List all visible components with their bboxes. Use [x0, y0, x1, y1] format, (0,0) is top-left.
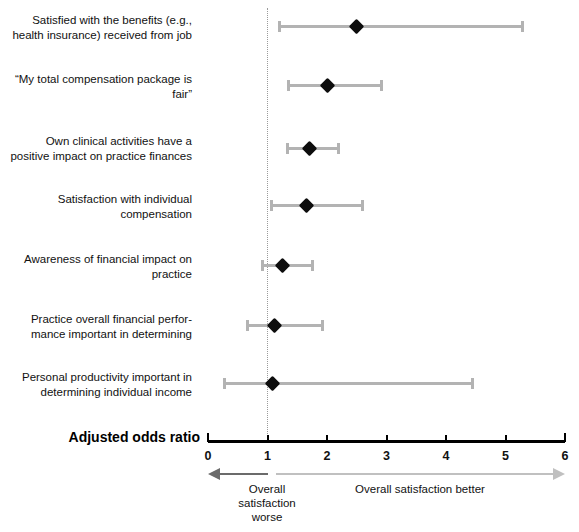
ci-cap-upper	[337, 143, 340, 154]
x-axis-tick	[267, 435, 269, 441]
x-axis-tick	[445, 435, 447, 441]
arrow-shaft	[276, 473, 556, 475]
reference-line-at-1	[267, 8, 268, 440]
odds-ratio-point	[267, 317, 283, 333]
ci-cap-upper	[471, 378, 474, 389]
odds-ratio-point	[275, 257, 291, 273]
confidence-interval-line	[247, 324, 323, 327]
x-axis-tick-label: 4	[431, 449, 461, 463]
x-axis-tick	[326, 435, 328, 441]
odds-ratio-point	[319, 77, 335, 93]
better-direction-arrow	[276, 467, 566, 481]
ci-cap-upper	[311, 260, 314, 271]
arrow-shaft	[218, 473, 268, 475]
odds-ratio-point	[299, 197, 315, 213]
ci-cap-upper	[521, 21, 524, 32]
arrow-head	[208, 468, 220, 480]
x-axis-tick-label: 2	[312, 449, 342, 463]
ci-cap-lower	[246, 320, 249, 331]
confidence-interval-line	[280, 25, 522, 28]
ci-cap-upper	[380, 80, 383, 91]
ci-cap-upper	[361, 200, 364, 211]
confidence-interval-line	[271, 204, 362, 207]
x-axis-tick-label: 1	[253, 449, 283, 463]
ci-cap-lower	[261, 260, 264, 271]
x-axis-tick	[505, 435, 507, 441]
odds-ratio-point	[349, 18, 365, 34]
x-axis-tick-label: 0	[193, 449, 223, 463]
confidence-interval-line	[289, 84, 382, 87]
ci-cap-lower	[287, 80, 290, 91]
x-axis-tick-label: 3	[372, 449, 402, 463]
forest-plot-figure: Satisfied with the benefits (e.g., healt…	[0, 0, 579, 532]
ci-cap-lower	[270, 200, 273, 211]
x-axis-tick	[564, 433, 567, 442]
x-axis-tick-label: 6	[550, 449, 579, 463]
x-axis-tick	[207, 433, 210, 442]
odds-ratio-point	[302, 140, 318, 156]
arrow-head	[553, 468, 565, 480]
x-axis-title: Adjusted odds ratio	[0, 429, 200, 445]
ci-cap-upper	[321, 320, 324, 331]
ci-cap-lower	[286, 143, 289, 154]
better-direction-caption: Overall satisfaction better	[275, 482, 565, 496]
x-axis-tick-label: 5	[491, 449, 521, 463]
confidence-interval-line	[224, 382, 473, 385]
x-axis-tick	[386, 435, 388, 441]
worse-direction-arrow	[208, 467, 268, 481]
ci-cap-lower	[223, 378, 226, 389]
ci-cap-lower	[278, 21, 281, 32]
